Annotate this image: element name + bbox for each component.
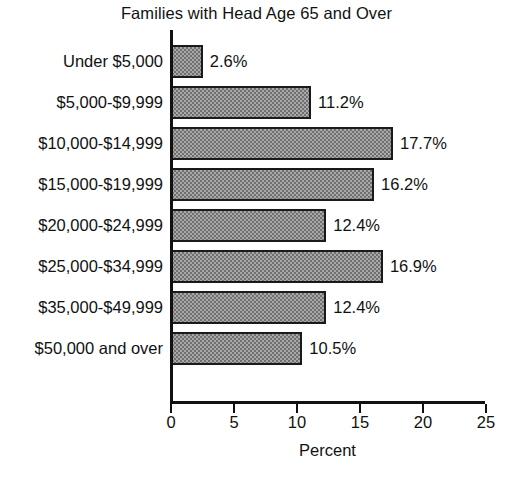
bar-row: $20,000-$24,99912.4%	[0, 209, 513, 242]
bar-value-label: 16.2%	[381, 168, 428, 201]
bar-row: $50,000 and over10.5%	[0, 332, 513, 365]
value-axis-line	[170, 401, 485, 404]
category-label: $5,000-$9,999	[57, 86, 163, 119]
bar-value-label: 16.9%	[390, 250, 437, 283]
bar-row: $5,000-$9,99911.2%	[0, 86, 513, 119]
bar	[170, 332, 302, 365]
bar-row: Under $5,0002.6%	[0, 45, 513, 78]
category-label: $50,000 and over	[35, 332, 163, 365]
axis-tick-label: 5	[214, 413, 254, 432]
value-axis-title: Percent	[170, 441, 485, 460]
axis-tick	[359, 404, 361, 413]
bar-value-label: 12.4%	[333, 291, 380, 324]
bar-value-label: 10.5%	[309, 332, 356, 365]
axis-tick	[296, 404, 298, 413]
category-label: $25,000-$34,999	[38, 250, 163, 283]
axis-tick-label: 25	[466, 413, 506, 432]
category-label: $15,000-$19,999	[38, 168, 163, 201]
category-label: $35,000-$49,999	[38, 291, 163, 324]
category-label: Under $5,000	[63, 45, 163, 78]
axis-tick-label: 10	[277, 413, 317, 432]
bar-row: $15,000-$19,99916.2%	[0, 168, 513, 201]
bar-value-label: 12.4%	[333, 209, 380, 242]
axis-tick	[170, 404, 172, 413]
bar	[170, 45, 203, 78]
bar-value-label: 11.2%	[318, 86, 364, 119]
bar-row: $10,000-$14,99917.7%	[0, 127, 513, 160]
bar	[170, 168, 374, 201]
axis-tick-label: 20	[403, 413, 443, 432]
axis-tick	[485, 404, 487, 413]
category-label: $10,000-$14,999	[38, 127, 163, 160]
axis-tick	[422, 404, 424, 413]
bar	[170, 209, 326, 242]
bar-value-label: 17.7%	[400, 127, 447, 160]
category-axis-line	[170, 30, 173, 404]
axis-tick-label: 0	[151, 413, 191, 432]
bar	[170, 250, 383, 283]
bar	[170, 127, 393, 160]
bar-row: $25,000-$34,99916.9%	[0, 250, 513, 283]
bar	[170, 86, 311, 119]
category-label: $20,000-$24,999	[38, 209, 163, 242]
bar	[170, 291, 326, 324]
plot-area: Under $5,0002.6%$5,000-$9,99911.2%$10,00…	[0, 0, 513, 482]
axis-tick-label: 15	[340, 413, 380, 432]
bar-value-label: 2.6%	[210, 45, 248, 78]
bar-chart: Families with Head Age 65 and Over Under…	[0, 0, 513, 482]
bar-row: $35,000-$49,99912.4%	[0, 291, 513, 324]
axis-tick	[233, 404, 235, 413]
